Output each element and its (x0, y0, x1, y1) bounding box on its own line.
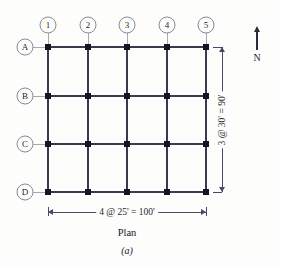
figure-caption: Plan (118, 227, 137, 238)
column-bubble-label-2: 2 (80, 17, 97, 34)
dim-arrowhead-bottom (219, 187, 225, 192)
column-marker-c2 (85, 141, 91, 147)
column-marker-c5 (203, 141, 209, 147)
column-marker-a1 (45, 44, 51, 50)
dim-arrowhead-right (201, 209, 206, 215)
figure-subcaption: (a) (121, 245, 133, 256)
column-marker-d5 (203, 189, 209, 195)
column-marker-a5 (203, 44, 209, 50)
column-marker-b4 (164, 93, 170, 99)
grid-line-column-3 (126, 46, 128, 193)
dim-tick-bottom (213, 192, 222, 193)
column-marker-c1 (45, 141, 51, 147)
column-marker-b5 (203, 93, 209, 99)
plan-figure: 1 2 3 4 5 A B C D (0, 0, 281, 266)
row-bubble-label-b: B (17, 88, 34, 105)
column-marker-a2 (85, 44, 91, 50)
vertical-dimension-text: 3 @ 30' = 90' (217, 92, 227, 149)
north-arrow-shaft (256, 32, 258, 50)
row-bubble-label-d: D (17, 184, 34, 201)
grid-line-column-2 (87, 46, 89, 193)
north-label: N (253, 52, 260, 63)
column-marker-a3 (124, 44, 130, 50)
grid-line-column-1 (47, 46, 49, 193)
column-bubble-label-3: 3 (119, 17, 136, 34)
dim-arrowhead-left (48, 209, 53, 215)
column-bubble-label-1: 1 (40, 17, 57, 34)
horizontal-dimension-text: 4 @ 25' = 100' (96, 207, 158, 217)
column-bubble-label-4: 4 (159, 17, 176, 34)
column-marker-b2 (85, 93, 91, 99)
row-bubble-label-c: C (17, 136, 34, 153)
grid-line-column-5 (205, 46, 207, 193)
dim-arrowhead-top (219, 47, 225, 52)
row-bubble-label-a: A (17, 39, 34, 56)
column-marker-b3 (124, 93, 130, 99)
column-marker-d4 (164, 189, 170, 195)
grid-line-column-4 (166, 46, 168, 193)
column-bubble-label-5: 5 (198, 17, 215, 34)
column-marker-d2 (85, 189, 91, 195)
dim-tick-right (206, 207, 207, 216)
column-marker-d1 (45, 189, 51, 195)
column-marker-d3 (124, 189, 130, 195)
column-marker-c4 (164, 141, 170, 147)
column-marker-b1 (45, 93, 51, 99)
column-marker-a4 (164, 44, 170, 50)
column-marker-c3 (124, 141, 130, 147)
